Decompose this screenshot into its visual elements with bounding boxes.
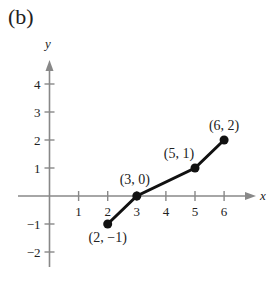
y-tick-label: 3: [34, 105, 41, 120]
y-ticks: −2−11234: [27, 77, 55, 260]
point-label: (2, −1): [89, 230, 128, 246]
x-axis-arrow-icon: [245, 192, 256, 200]
data-point: [132, 192, 141, 201]
y-axis-arrow-icon: [46, 60, 54, 71]
panel-label: (b): [8, 4, 34, 29]
x-tick-label: 1: [75, 204, 82, 219]
chart: (b) y x 123456 −2−11234 (2, −1)(3, 0)(5,…: [0, 0, 277, 285]
y-tick-label: −1: [27, 217, 41, 232]
x-tick-label: 6: [221, 204, 228, 219]
y-axis-label: y: [43, 36, 51, 51]
point-label: (6, 2): [209, 118, 240, 134]
y-tick-label: 4: [34, 77, 41, 92]
y-tick-label: −2: [27, 245, 41, 260]
data-point: [103, 220, 112, 229]
data-point: [191, 164, 200, 173]
x-tick-label: 5: [192, 204, 199, 219]
data-point: [220, 136, 229, 145]
point-label: (5, 1): [164, 146, 195, 162]
x-tick-label: 2: [104, 204, 111, 219]
point-label: (3, 0): [120, 172, 151, 188]
x-tick-label: 3: [134, 204, 141, 219]
y-tick-label: 1: [34, 161, 41, 176]
y-tick-label: 2: [34, 133, 41, 148]
x-axis-label: x: [259, 188, 266, 203]
x-tick-label: 4: [163, 204, 170, 219]
